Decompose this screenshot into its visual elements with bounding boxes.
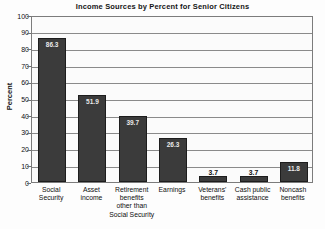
gridline — [32, 33, 312, 34]
y-tick-label: 10 — [1, 163, 29, 170]
x-category-line: Noncash — [270, 186, 316, 194]
x-category-line: other than — [109, 202, 155, 210]
x-category-line: benefits — [109, 194, 155, 202]
gridline — [32, 133, 312, 134]
bar-value-label: 3.7 — [240, 169, 268, 176]
bar-value-label: 51.9 — [79, 98, 105, 105]
gridline — [32, 67, 312, 68]
bar-value-label: 39.7 — [120, 119, 146, 126]
x-category-line: Social Security — [109, 211, 155, 219]
gridline — [32, 117, 312, 118]
chart-container: Income Sources by Percent for Senior Cit… — [0, 0, 325, 229]
bar[interactable]: 86.3 — [38, 38, 66, 182]
y-tick-label: 30 — [1, 129, 29, 136]
y-tick-label: 90 — [1, 29, 29, 36]
chart-title: Income Sources by Percent for Senior Cit… — [0, 2, 325, 11]
y-tick-label: 80 — [1, 46, 29, 53]
y-tick-label: 70 — [1, 63, 29, 70]
y-tick-mark — [27, 183, 31, 184]
y-tick-label: 60 — [1, 79, 29, 86]
bar[interactable]: 39.7 — [119, 116, 147, 182]
y-tick-label: 40 — [1, 113, 29, 120]
gridline — [32, 50, 312, 51]
bar[interactable]: 11.8 — [280, 162, 308, 182]
y-tick-label: 50 — [1, 96, 29, 103]
x-category-line: benefits — [270, 194, 316, 202]
bar[interactable]: 26.3 — [159, 138, 187, 182]
gridline — [32, 100, 312, 101]
bar-value-label: 86.3 — [39, 41, 65, 48]
bar[interactable] — [199, 176, 227, 182]
bar-value-label: 11.8 — [281, 165, 307, 172]
y-tick-label: 0 — [1, 180, 29, 187]
bar[interactable] — [240, 176, 268, 182]
y-tick-label: 20 — [1, 146, 29, 153]
bar[interactable]: 51.9 — [78, 95, 106, 182]
gridline — [32, 83, 312, 84]
x-category-label: Noncashbenefits — [270, 186, 316, 202]
bar-value-label: 3.7 — [199, 169, 227, 176]
y-tick-label: 100 — [1, 13, 29, 20]
plot-area: 86.351.939.726.33.73.711.8 — [31, 16, 313, 183]
bar-value-label: 26.3 — [160, 141, 186, 148]
